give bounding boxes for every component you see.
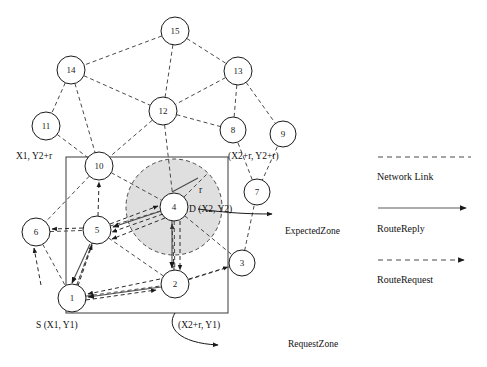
- node-label: 3: [240, 258, 245, 268]
- node-2[interactable]: 2: [161, 270, 189, 298]
- route-request-link: [98, 182, 99, 216]
- node-label: 5: [95, 225, 100, 235]
- legend-label-route-request: RouteRequest: [377, 274, 433, 285]
- request-zone-label: RequestZone: [288, 339, 338, 349]
- node-7[interactable]: 7: [244, 179, 270, 205]
- node-label: 11: [42, 121, 51, 131]
- node-label: 12: [159, 106, 168, 116]
- node-12[interactable]: 12: [149, 97, 177, 125]
- node-10[interactable]: 10: [85, 152, 113, 180]
- node-label: 4: [172, 202, 177, 212]
- node-9[interactable]: 9: [270, 121, 296, 147]
- route-reply-link: [88, 287, 161, 297]
- node-4[interactable]: 4: [160, 193, 188, 221]
- zone-top-right-label: (X2+r, Y2+r): [228, 151, 279, 162]
- node-13[interactable]: 13: [224, 57, 252, 85]
- diagram-canvas: 15 14 13 12 11 8: [0, 0, 487, 367]
- legend-label-network-link: Network Link: [377, 171, 433, 182]
- node-8[interactable]: 8: [220, 117, 246, 143]
- node-label: 9: [281, 129, 286, 139]
- node-label: 1: [70, 293, 75, 303]
- network-link: [71, 31, 175, 70]
- node-15[interactable]: 15: [161, 17, 189, 45]
- node-label: 2: [173, 279, 178, 289]
- route-request-link: [52, 228, 83, 229]
- node-label: 7: [255, 187, 260, 197]
- node-11[interactable]: 11: [32, 112, 60, 140]
- node-6[interactable]: 6: [22, 218, 50, 246]
- network-link: [71, 70, 163, 111]
- node-label: 10: [95, 161, 105, 171]
- node-label: 6: [34, 227, 39, 237]
- legend-label-route-reply: RouteReply: [377, 223, 425, 234]
- node-3[interactable]: 3: [229, 250, 255, 276]
- zone-bottom-left-label: S (X1, Y1): [36, 320, 78, 331]
- route-request-link: [34, 248, 41, 285]
- network-link: [71, 70, 99, 166]
- zone-top-left-label: X1, Y2+r: [16, 151, 53, 161]
- node-label: 14: [67, 65, 77, 75]
- node-label: 13: [234, 66, 244, 76]
- node-1[interactable]: 1: [58, 284, 86, 312]
- node-5[interactable]: 5: [83, 216, 111, 244]
- destination-label: D (X2, Y2): [189, 204, 232, 215]
- expected-zone-label: ExpectedZone: [285, 226, 340, 236]
- node-label: 8: [231, 125, 236, 135]
- network-diagram-svg: 15 14 13 12 11 8: [0, 0, 487, 367]
- zone-bottom-right-label: (X2+r, Y1): [178, 320, 220, 331]
- node-14[interactable]: 14: [57, 56, 85, 84]
- node-label: 15: [171, 26, 181, 36]
